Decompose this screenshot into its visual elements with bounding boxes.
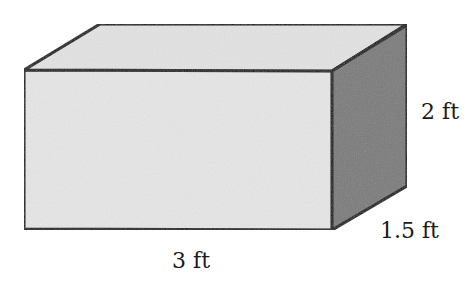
depth-label: 1.5 ft: [380, 218, 439, 243]
height-label: 2 ft: [421, 99, 459, 124]
box-diagram: 2 ft 1.5 ft 3 ft: [0, 0, 474, 284]
front-face: [24, 70, 332, 230]
length-label: 3 ft: [172, 248, 210, 273]
